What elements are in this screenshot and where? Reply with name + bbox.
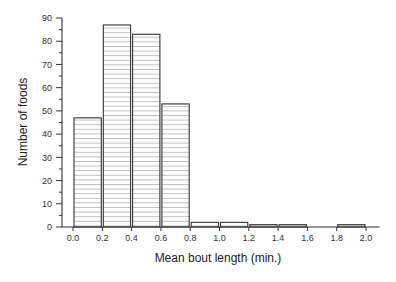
- y-tick-label: 10: [42, 199, 52, 209]
- y-tick-label: 90: [42, 13, 52, 23]
- bars-group: [74, 25, 365, 227]
- x-tick-label: 1.2: [243, 233, 256, 243]
- y-axis-title: Number of foods: [16, 78, 30, 167]
- x-tick-label: 0.6: [155, 233, 168, 243]
- x-tick-label: 0.8: [184, 233, 197, 243]
- x-tick-label: 1.6: [301, 233, 314, 243]
- y-axis: 0102030405060708090: [42, 13, 62, 232]
- x-tick-label: 1.8: [330, 233, 343, 243]
- histogram-bar: [191, 222, 218, 227]
- y-tick-label: 40: [42, 129, 52, 139]
- y-tick-label: 70: [42, 60, 52, 70]
- y-tick-label: 80: [42, 36, 52, 46]
- histogram-bar: [103, 25, 130, 227]
- x-axis-title: Mean bout length (min.): [155, 251, 282, 265]
- histogram-bar: [74, 118, 101, 227]
- x-tick-label: 2.0: [360, 233, 373, 243]
- y-tick-label: 0: [47, 222, 52, 232]
- histogram-bar: [162, 104, 189, 227]
- x-tick-label: 0.0: [67, 233, 80, 243]
- histogram-bar: [221, 222, 248, 227]
- histogram-bar: [133, 34, 160, 227]
- y-tick-label: 30: [42, 153, 52, 163]
- x-tick-label: 0.4: [125, 233, 138, 243]
- y-tick-label: 60: [42, 83, 52, 93]
- x-tick-label: 1.4: [272, 233, 285, 243]
- histogram-chart: 0102030405060708090 0.00.20.40.60.81.01.…: [0, 0, 396, 282]
- x-axis: 0.00.20.40.60.81.01.21.41.61.82.0: [62, 227, 380, 243]
- x-tick-label: 1.0: [213, 233, 226, 243]
- x-tick-label: 0.2: [96, 233, 109, 243]
- y-tick-label: 20: [42, 176, 52, 186]
- y-tick-label: 50: [42, 106, 52, 116]
